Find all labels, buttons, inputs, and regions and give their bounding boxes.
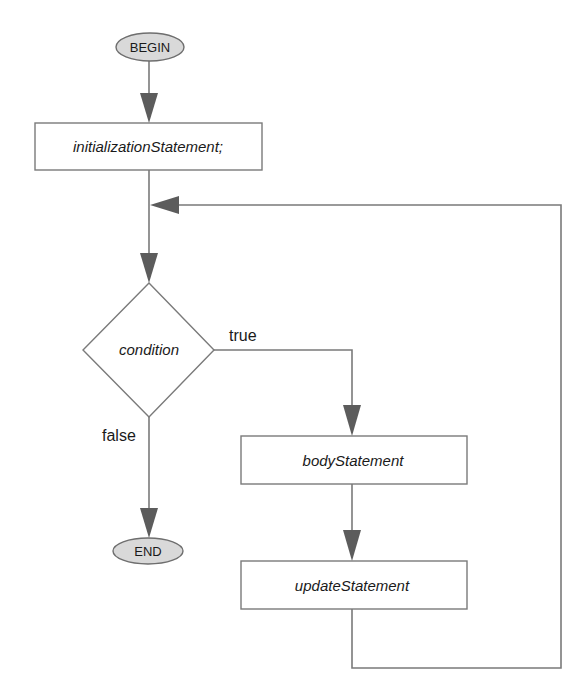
node-body-label: bodyStatement — [303, 452, 405, 469]
node-update-label: updateStatement — [295, 577, 410, 594]
node-initialization-label: initializationStatement; — [73, 138, 223, 155]
node-begin: BEGIN — [116, 33, 184, 61]
node-end-label: END — [134, 544, 161, 559]
edge-label-true: true — [229, 327, 257, 344]
node-condition: condition — [83, 283, 214, 417]
arrowhead-left-icon — [150, 196, 179, 214]
node-begin-label: BEGIN — [130, 40, 170, 55]
node-update: updateStatement — [241, 561, 467, 609]
arrowhead-down-icon — [343, 530, 361, 561]
edge-condition-true — [214, 350, 352, 410]
arrowhead-down-icon — [140, 253, 158, 283]
arrowhead-down-icon — [140, 93, 158, 123]
edge-label-false: false — [102, 427, 136, 444]
node-condition-label: condition — [119, 341, 179, 358]
node-initialization: initializationStatement; — [35, 123, 262, 170]
node-end: END — [113, 538, 183, 564]
flowchart-canvas: BEGIN initializationStatement; condition… — [0, 0, 584, 693]
node-body: bodyStatement — [241, 436, 467, 484]
arrowhead-down-icon — [343, 405, 361, 436]
arrowhead-down-icon — [140, 508, 158, 538]
